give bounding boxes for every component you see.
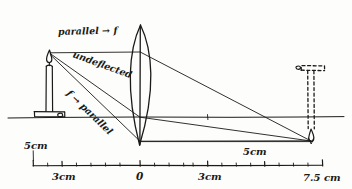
ray-undeflected [50,54,311,141]
tick-label-left-3cm: 3cm [52,171,76,182]
label-image-distance: 5cm [243,146,267,157]
inverted-candle-image [296,66,325,142]
tick-label-right-3cm: 3cm [198,171,222,182]
converging-lens [130,25,151,145]
candle-object [34,50,65,117]
optics-ray-diagram: parallel → f undeflected f → parallel 5c… [0,0,352,189]
label-parallel-to-focus: parallel → f [58,25,120,37]
ray-focus-to-parallel [50,55,311,142]
scale-ruler [33,160,323,166]
tick-label-right-end: 7.5 cm [303,172,341,183]
tick-label-origin: 0 [136,170,144,182]
measurement-span-image [140,138,314,145]
label-object-distance: 5cm [24,140,48,151]
